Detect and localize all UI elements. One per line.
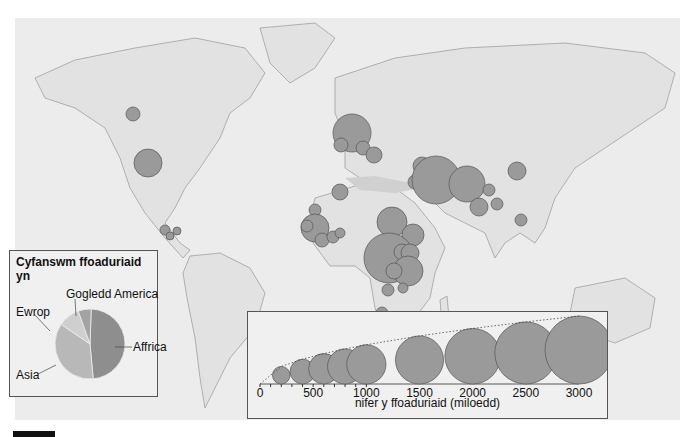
refugee-circle: [449, 166, 485, 202]
size-legend-axis-label: nifer y ffoaduriaid (miloedd): [248, 396, 607, 410]
pie-legend-panel: Cyfanswm ffoaduriaid yn Ewrop Gogledd Am…: [9, 250, 158, 397]
refugee-circle: [301, 220, 313, 232]
refugee-circle: [134, 149, 162, 177]
refugee-circle: [126, 107, 140, 121]
world-map: Cyfanswm ffoaduriaid yn Ewrop Gogledd Am…: [15, 18, 680, 420]
pie-label-ewrop: Ewrop: [16, 305, 50, 319]
refugee-circle: [398, 283, 408, 293]
size-legend-panel: 050010001500200025003000 nifer y ffoadur…: [247, 311, 608, 419]
refugee-circle: [315, 233, 329, 247]
refugee-circle: [334, 138, 348, 152]
legend-circle: [445, 328, 501, 384]
pie-label-asia: Asia: [16, 368, 39, 382]
refugee-circle: [470, 198, 488, 216]
legend-circle: [272, 366, 290, 384]
refugee-circle: [491, 198, 503, 210]
refugee-circle: [332, 184, 348, 200]
refugee-circle: [382, 284, 394, 296]
refugee-circle: [335, 228, 345, 238]
legend-circle: [545, 316, 607, 384]
refugee-circle: [508, 162, 526, 180]
pie-label-gogledd-america: Gogledd America: [66, 287, 158, 301]
refugee-circle: [515, 214, 527, 226]
refugee-circle: [366, 147, 382, 163]
refugee-circle: [483, 184, 495, 196]
greenland-shape: [260, 23, 335, 83]
pie-slice: [90, 309, 125, 379]
pie-chart: [55, 309, 125, 379]
refugee-circle: [166, 232, 174, 240]
legend-circle: [395, 336, 443, 384]
legend-circle: [347, 345, 386, 384]
refugee-circle: [386, 263, 402, 279]
page-marker-bar: [13, 431, 55, 437]
refugee-circle: [173, 227, 181, 235]
pie-label-affrica: Affrica: [133, 340, 167, 354]
north-america-shape: [35, 38, 265, 258]
